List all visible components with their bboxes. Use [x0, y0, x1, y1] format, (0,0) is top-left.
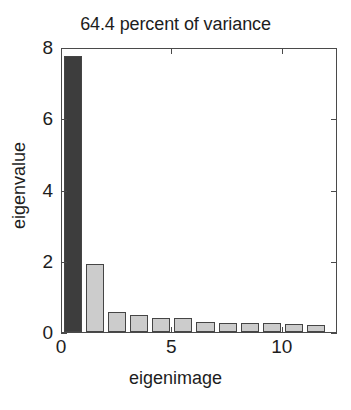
y-tick-mark-right [331, 119, 337, 120]
y-tick-mark [61, 333, 67, 334]
y-tick-label: 0 [27, 323, 53, 342]
bar [285, 324, 303, 332]
x-tick-mark [171, 327, 172, 333]
y-tick-mark-right [331, 48, 337, 49]
bar [130, 315, 148, 332]
y-tick-mark [61, 262, 67, 263]
bar-series [62, 49, 336, 332]
bar [108, 312, 126, 332]
bar [196, 322, 214, 332]
chart-title: 64.4 percent of variance [0, 14, 351, 35]
y-tick-mark-right [331, 191, 337, 192]
bar [64, 56, 82, 332]
bar [307, 325, 325, 332]
x-tick-mark [282, 327, 283, 333]
y-tick-label: 8 [27, 38, 53, 57]
bar [219, 323, 237, 332]
bar [263, 323, 281, 332]
x-tick-mark [61, 327, 62, 333]
y-tick-label: 6 [27, 109, 53, 128]
plot-area [61, 48, 337, 333]
x-axis-title: eigenimage [0, 368, 351, 389]
y-tick-mark-right [331, 333, 337, 334]
y-tick-mark [61, 191, 67, 192]
x-tick-label: 0 [56, 337, 67, 356]
bar [241, 323, 259, 332]
x-tick-label: 10 [271, 337, 292, 356]
y-tick-label: 2 [27, 252, 53, 271]
x-tick-mark-top [171, 48, 172, 54]
x-tick-mark-top [282, 48, 283, 54]
y-tick-label: 4 [27, 181, 53, 200]
x-tick-label: 5 [166, 337, 177, 356]
bar [152, 318, 170, 332]
y-axis-title: eigenvalue [9, 121, 30, 251]
chart-figure: 64.4 percent of variance 02468 0510 eige… [0, 0, 351, 410]
bar [86, 264, 104, 332]
x-tick-mark-top [61, 48, 62, 54]
y-tick-mark-right [331, 262, 337, 263]
y-tick-mark [61, 119, 67, 120]
bar [174, 318, 192, 332]
